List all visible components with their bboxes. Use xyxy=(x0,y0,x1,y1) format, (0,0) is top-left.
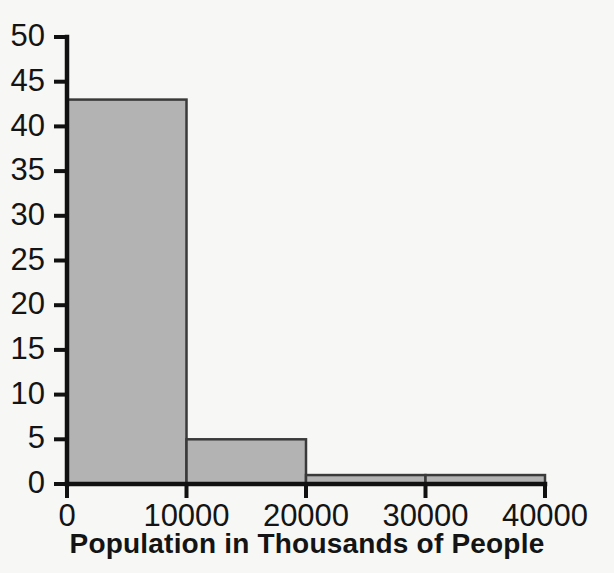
y-tick-label: 0 xyxy=(28,465,45,500)
y-tick-label: 50 xyxy=(11,18,45,53)
y-tick-label: 10 xyxy=(11,376,45,411)
y-tick-label: 20 xyxy=(11,286,45,321)
chart-svg: 05101520253035404550 0100002000030000400… xyxy=(0,0,614,573)
y-tick-label: 30 xyxy=(11,197,45,232)
bars-group xyxy=(67,100,545,484)
histogram-bar xyxy=(187,439,307,484)
y-tick-label: 5 xyxy=(28,420,45,455)
y-tick-label: 25 xyxy=(11,242,45,277)
y-tick-label: 15 xyxy=(11,331,45,366)
y-axis-tick-labels: 05101520253035404550 xyxy=(11,18,45,500)
y-tick-label: 40 xyxy=(11,108,45,143)
x-axis-title: Population in Thousands of People xyxy=(70,528,545,559)
histogram-figure: 05101520253035404550 0100002000030000400… xyxy=(0,0,614,573)
y-tick-label: 35 xyxy=(11,152,45,187)
y-tick-label: 45 xyxy=(11,63,45,98)
histogram-bar xyxy=(67,100,187,484)
plot-area: 05101520253035404550 0100002000030000400… xyxy=(0,0,614,573)
